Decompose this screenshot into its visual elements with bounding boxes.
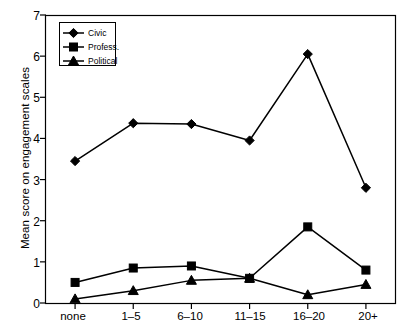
line-chart: Mean score on engagement scales 7 6 5 4 … <box>0 0 407 333</box>
data-point-2-5 <box>361 279 371 288</box>
series-civic <box>70 49 370 192</box>
series-line <box>75 278 366 299</box>
legend-label-2: Political <box>88 56 117 66</box>
plot-area: CivicProfess.Political <box>0 0 407 333</box>
data-point-0-3 <box>245 136 254 145</box>
legend-label-0: Civic <box>88 28 107 38</box>
data-point-1-1 <box>129 264 137 272</box>
y-tick-label-5: 5 <box>18 91 40 105</box>
data-point-1-0 <box>71 278 79 286</box>
data-series-group <box>70 49 371 302</box>
data-point-1-4 <box>304 223 312 231</box>
y-tick-label-1: 1 <box>18 256 40 270</box>
x-tick-label-20plus: 20+ <box>333 310 403 322</box>
y-axis-title: Mean score on engagement scales <box>19 38 31 278</box>
series-profess <box>71 223 370 287</box>
series-line <box>75 227 366 283</box>
series-political <box>70 273 371 302</box>
data-point-0-5 <box>361 183 370 192</box>
chart-legend: CivicProfess.Political <box>60 23 120 67</box>
data-point-0-1 <box>129 119 138 128</box>
data-point-0-4 <box>303 49 312 58</box>
data-point-0-2 <box>187 119 196 128</box>
data-point-0-0 <box>70 156 79 165</box>
legend-label-1: Profess. <box>88 42 119 52</box>
series-line <box>75 54 366 188</box>
data-point-1-5 <box>362 266 370 274</box>
y-tick-label-2: 2 <box>18 215 40 229</box>
data-point-1-2 <box>187 262 195 270</box>
square-marker-icon <box>70 43 78 51</box>
y-tick-label-3: 3 <box>18 174 40 188</box>
y-tick-label-4: 4 <box>18 132 40 146</box>
y-tick-label-0: 0 <box>18 297 40 311</box>
y-tick-label-7: 7 <box>18 9 40 23</box>
y-tick-label-6: 6 <box>18 50 40 64</box>
